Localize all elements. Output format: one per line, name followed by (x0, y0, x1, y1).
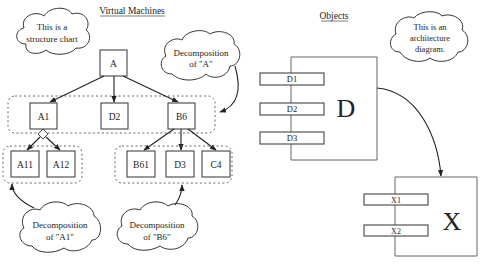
svg-text:This is an: This is an (413, 22, 447, 32)
node-a[interactable]: A (100, 50, 127, 76)
node-d2[interactable]: D2 (101, 103, 128, 129)
svg-text:D1: D1 (287, 74, 297, 84)
svg-text:Objects: Objects (319, 11, 348, 21)
svg-text:C4: C4 (210, 160, 221, 170)
edge-a-b6 (123, 76, 178, 102)
svg-text:of "B6": of "B6" (143, 232, 171, 242)
svg-text:diagram.: diagram. (415, 44, 445, 54)
svg-text:of "A": of "A" (189, 59, 213, 69)
svg-text:Decomposition: Decomposition (130, 220, 185, 230)
object-d[interactable]: D1 D2 D3 D (260, 57, 377, 160)
edge-a1-a12 (46, 137, 60, 150)
svg-text:D2: D2 (109, 112, 121, 122)
node-d3[interactable]: D3 (166, 151, 194, 177)
node-a11[interactable]: A11 (11, 151, 39, 177)
svg-text:B61: B61 (133, 160, 149, 170)
svg-text:D: D (337, 94, 356, 123)
svg-text:X1: X1 (391, 196, 401, 205)
cloud-structure-chart-note: This is a structure chart (17, 8, 90, 54)
edge-d-x (377, 88, 441, 176)
object-x[interactable]: X1 X2 X (364, 177, 477, 256)
svg-text:A11: A11 (17, 160, 33, 170)
cloud-architecture-note: This is an architecture diagram. (390, 12, 467, 62)
node-c4[interactable]: C4 (202, 151, 230, 177)
svg-text:Virtual Machines: Virtual Machines (99, 6, 165, 16)
svg-text:A: A (110, 59, 117, 69)
cloud-decomposition-a1: Decomposition of "A1" (12, 184, 101, 252)
svg-text:A1: A1 (38, 112, 50, 122)
title-virtual-machines: Virtual Machines (99, 6, 165, 16)
svg-text:A12: A12 (53, 160, 70, 170)
edge-a-a1 (50, 76, 104, 102)
svg-text:architecture: architecture (410, 33, 450, 43)
node-b61[interactable]: B61 (127, 151, 155, 177)
svg-text:D2: D2 (287, 104, 297, 114)
svg-text:D3: D3 (287, 133, 297, 143)
svg-text:Decomposition: Decomposition (174, 48, 229, 58)
svg-text:structure chart: structure chart (26, 34, 78, 44)
title-objects: Objects (319, 11, 348, 21)
svg-text:B6: B6 (176, 112, 187, 122)
svg-text:D3: D3 (174, 160, 186, 170)
edge-b6-c4 (188, 129, 216, 150)
cloud-decomposition-b6: Decomposition of "B6" (117, 185, 198, 250)
edge-b6-b61 (144, 129, 174, 150)
svg-text:of "A1": of "A1" (46, 232, 74, 242)
svg-text:X: X (443, 207, 462, 236)
node-a1[interactable]: A1 (30, 103, 57, 129)
node-b6[interactable]: B6 (168, 103, 195, 129)
svg-text:X2: X2 (391, 227, 401, 236)
diagram-canvas: Virtual Machines Objects This is a struc… (0, 0, 481, 270)
edge-a1-a11 (27, 137, 40, 150)
svg-text:This is a: This is a (37, 22, 68, 32)
svg-text:Decomposition: Decomposition (33, 220, 88, 230)
node-a12[interactable]: A12 (47, 151, 75, 177)
